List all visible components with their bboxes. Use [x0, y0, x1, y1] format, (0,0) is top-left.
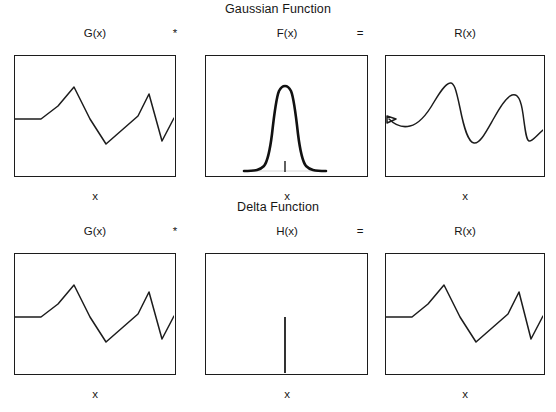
- plot-rx-bottom: [386, 254, 543, 373]
- label-gx-bottom: G(x): [55, 225, 135, 237]
- figure-convolution-illustration: Gaussian Function G(x) * F(x) = R(x) x x…: [0, 0, 556, 412]
- operator-convolve-top: *: [155, 27, 195, 39]
- plot-hx-delta: [206, 254, 366, 373]
- label-fx: F(x): [247, 27, 327, 39]
- plot-panel-rx-top: [385, 55, 545, 177]
- series-rx-bottom: [386, 285, 543, 342]
- axis-label-row-delta: x x x: [0, 388, 556, 404]
- series-gx-bottom: [15, 285, 174, 342]
- plot-gx-bottom: [15, 254, 174, 373]
- series-rx-top: [389, 83, 543, 143]
- label-rx-bottom: R(x): [425, 225, 505, 237]
- plot-panel-gx-top: [14, 55, 176, 177]
- operator-equals-top: =: [340, 27, 380, 39]
- label-hx: H(x): [247, 225, 327, 237]
- label-rx-top: R(x): [425, 27, 505, 39]
- operator-convolve-bottom: *: [155, 225, 195, 237]
- plot-rx-top: [386, 56, 543, 175]
- series-gx-top: [15, 87, 174, 144]
- plot-gx-top: [15, 56, 174, 175]
- plot-panel-rx-bottom: [385, 253, 545, 375]
- section-title-delta: Delta Function: [0, 200, 556, 214]
- operation-row-delta: G(x) * H(x) = R(x): [0, 225, 556, 243]
- axis-label-x-hx: x: [247, 388, 327, 400]
- plot-panel-gx-bottom: [14, 253, 176, 375]
- label-gx-top: G(x): [55, 27, 135, 39]
- operation-row-gaussian: G(x) * F(x) = R(x): [0, 27, 556, 45]
- axis-label-x-gx-bottom: x: [55, 388, 135, 400]
- axis-label-x-rx-bottom: x: [425, 388, 505, 400]
- operator-equals-bottom: =: [340, 225, 380, 237]
- plot-fx-gaussian: [206, 56, 366, 175]
- plot-panel-fx: [205, 55, 368, 177]
- series-fx-gaussian: [244, 86, 326, 171]
- plot-panel-hx: [205, 253, 368, 375]
- section-title-gaussian: Gaussian Function: [0, 2, 556, 16]
